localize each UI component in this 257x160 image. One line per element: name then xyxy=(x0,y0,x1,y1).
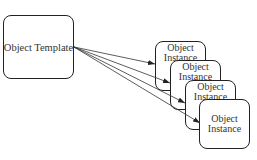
edge-arrow-2 xyxy=(74,47,170,83)
edge-arrow-1 xyxy=(74,47,155,64)
edges-layer xyxy=(0,0,257,160)
edge-arrow-3 xyxy=(74,47,185,103)
edge-arrow-4 xyxy=(74,47,200,123)
